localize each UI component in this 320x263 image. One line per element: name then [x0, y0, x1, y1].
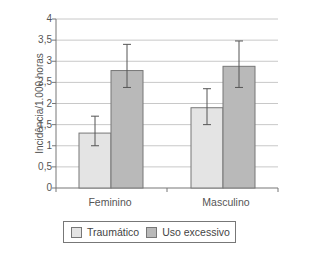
legend-swatch-traumatico — [71, 227, 82, 238]
legend-swatch-uso-excessivo — [146, 227, 157, 238]
legend: Traumático Uso excessivo — [63, 221, 236, 243]
legend-label-traumatico: Traumático — [87, 226, 139, 238]
x-category-masculino: Masculino — [176, 196, 276, 208]
x-category-feminino: Feminino — [60, 196, 160, 208]
legend-label-uso-excessivo: Uso excessivo — [162, 226, 230, 238]
